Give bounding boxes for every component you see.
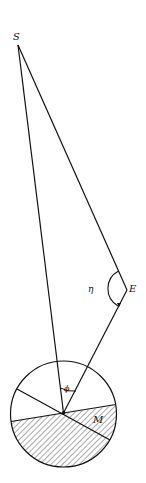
shaded-hemisphere — [0, 401, 146, 483]
label-earth: E — [128, 283, 137, 294]
earth-moon-line — [64, 290, 128, 413]
label-sun: S — [13, 31, 20, 42]
label-phi: ϕ — [64, 384, 70, 393]
center-point — [62, 411, 66, 415]
sun-earth-line — [18, 45, 127, 290]
label-moon: M — [92, 414, 104, 425]
geometry-diagram: S E η ϕ M — [0, 0, 146, 483]
sun-moon-line — [18, 45, 64, 413]
label-eta: η — [88, 284, 94, 294]
eta-angle-arc — [108, 271, 119, 306]
